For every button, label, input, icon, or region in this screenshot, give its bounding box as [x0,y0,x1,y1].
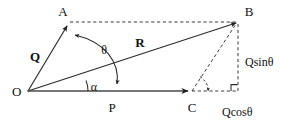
point-label-b: B [245,4,254,19]
point-label-p: P [108,100,115,115]
vector-diagram-canvas: O A B P C Q R θ α Qsinθ Qcosθ [0,0,283,129]
right-angle-marker [231,85,237,91]
point-label-o: O [12,84,21,99]
vector-label-q: Q [30,49,40,64]
angle-theta-arc [75,35,117,84]
vector-label-r: R [135,35,145,50]
component-label-qsintheta: Qsinθ [245,55,274,69]
angle-alpha-arc [86,81,88,92]
angle-theta-at-c-arc [200,77,208,92]
point-label-c: C [188,100,197,115]
point-label-a: A [58,4,68,19]
angle-label-alpha: α [91,80,98,94]
dashed-line-cb [192,24,236,91]
component-label-qcostheta: Qcosθ [222,105,253,119]
angle-label-theta: θ [101,43,107,57]
vector-diagram-figure: O A B P C Q R θ α Qsinθ Qcosθ [0,0,283,129]
